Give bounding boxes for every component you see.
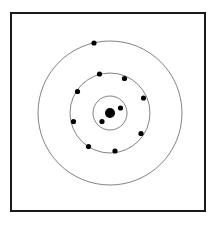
electron-shell1-1 — [118, 105, 123, 110]
electron-shell2-3 — [75, 89, 80, 94]
electron-shell2-8 — [112, 148, 117, 153]
electron-shell2-2 — [122, 76, 127, 81]
atom-diagram — [0, 0, 222, 228]
electron-shell2-6 — [138, 131, 143, 136]
electron-shell2-4 — [141, 95, 146, 100]
nucleus — [105, 108, 115, 118]
electron-shell2-5 — [71, 119, 76, 124]
electron-shell1-2 — [99, 119, 104, 124]
bohr-model-figure — [0, 0, 222, 228]
electron-shell3-1 — [91, 40, 96, 45]
electron-shell2-7 — [86, 144, 91, 149]
electron-shell2-1 — [97, 71, 102, 76]
